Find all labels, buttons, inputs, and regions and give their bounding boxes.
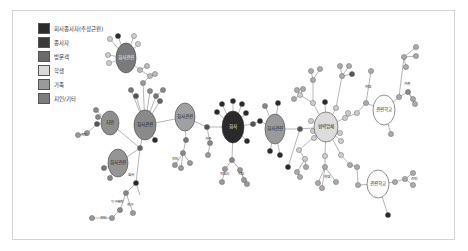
person-node — [403, 64, 408, 69]
legend-swatch — [38, 51, 50, 62]
person-node — [402, 176, 407, 181]
person-node — [410, 182, 415, 187]
legend-label: 회사종사자(추정근원) — [54, 25, 103, 33]
person-node — [131, 33, 136, 38]
hub-node-label: 회사관련 — [110, 159, 126, 166]
person-node — [123, 190, 128, 195]
person-node — [267, 148, 272, 153]
person-node — [294, 169, 299, 174]
legend-item-company-worker: 회사종사자(추정근원) — [38, 22, 103, 35]
edge — [336, 76, 342, 108]
person-node — [243, 110, 248, 115]
legend-swatch — [38, 23, 50, 34]
person-node — [333, 105, 338, 110]
legend-item-acquaintance: 지인/기타 — [38, 92, 103, 105]
edge-label: 학원 — [365, 84, 372, 89]
person-node — [410, 96, 415, 101]
person-node — [337, 130, 342, 135]
person-node — [230, 98, 235, 103]
legend-item-student: 학생 — [38, 64, 103, 77]
person-node — [75, 132, 80, 137]
person-node — [107, 175, 112, 180]
person-node — [347, 162, 352, 167]
person-node — [349, 71, 354, 76]
person-node — [363, 100, 368, 105]
person-node — [413, 44, 418, 49]
person-node — [410, 170, 415, 175]
person-node — [187, 160, 192, 165]
person-node — [140, 80, 145, 85]
person-node — [180, 150, 185, 155]
person-node — [405, 89, 410, 94]
person-node — [354, 110, 359, 115]
person-node — [101, 165, 106, 170]
person-node — [297, 126, 302, 131]
edge-label: 친구 — [127, 202, 134, 207]
legend-item-visitor: 방문객 — [38, 50, 103, 63]
person-node — [308, 118, 313, 123]
person-node — [105, 52, 110, 57]
person-node — [137, 145, 142, 150]
hub-node-label: 회사관련 — [177, 113, 193, 120]
person-node — [117, 207, 122, 212]
edge-label: 지인 — [411, 176, 418, 181]
person-node — [285, 164, 290, 169]
person-node — [207, 140, 212, 145]
person-node — [94, 121, 99, 126]
legend-item-family: 가족 — [38, 78, 103, 91]
person-node — [219, 179, 224, 184]
person-node — [302, 156, 307, 161]
person-node — [277, 152, 282, 157]
edge-label: 가족 — [205, 136, 212, 141]
edge — [136, 148, 140, 183]
edge-label: 누구관련 — [111, 199, 124, 204]
person-node — [310, 100, 315, 105]
person-node — [130, 210, 135, 215]
person-node — [319, 185, 324, 190]
person-node — [135, 41, 140, 46]
legend-swatch — [38, 93, 50, 104]
person-node — [144, 63, 149, 68]
person-node — [338, 138, 343, 143]
person-node — [257, 118, 262, 123]
person-node — [172, 162, 177, 167]
person-node — [93, 107, 98, 112]
person-node — [303, 164, 308, 169]
hub-node-label: 관련학교 — [370, 180, 386, 187]
person-node — [153, 93, 158, 98]
person-node — [413, 53, 418, 58]
person-node — [322, 99, 327, 104]
edge-label: 학원시 — [220, 171, 229, 176]
person-node — [342, 115, 347, 120]
person-node — [128, 87, 133, 92]
person-node — [115, 33, 120, 38]
hub-node-label: 지인 — [106, 119, 114, 126]
person-node — [308, 68, 313, 73]
legend-label: 학생 — [54, 67, 64, 75]
person-node — [291, 96, 296, 101]
person-node — [311, 135, 316, 140]
hub-node-label: 회사관련 — [118, 54, 134, 61]
person-node — [89, 215, 94, 220]
person-node — [294, 87, 299, 92]
person-node — [300, 86, 305, 91]
edge-label: 회사 — [128, 172, 135, 177]
person-node — [315, 180, 320, 185]
person-node — [147, 88, 152, 93]
person-node — [133, 180, 138, 185]
person-node — [109, 215, 114, 220]
person-node — [296, 147, 301, 152]
hub-node-label: 관련학교 — [376, 106, 392, 113]
edge-label: 지인 — [238, 171, 245, 176]
edge-label: 지인 — [81, 132, 88, 137]
person-node — [338, 152, 343, 157]
hub-node-label: 회사관련 — [267, 125, 283, 132]
person-node — [333, 179, 338, 184]
person-node — [322, 164, 327, 169]
person-node — [275, 100, 280, 105]
legend-label: 지인/기타 — [54, 95, 76, 103]
person-node — [355, 182, 360, 187]
edge-label: 학원 — [324, 174, 331, 179]
person-node — [229, 157, 234, 162]
person-node — [95, 114, 100, 119]
